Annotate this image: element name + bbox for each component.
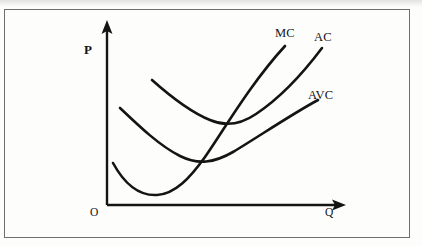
avc-curve-label: AVC xyxy=(308,88,333,103)
mc-curve-label: MC xyxy=(275,26,295,41)
figure-container: P O Q MC AC AVC xyxy=(0,0,422,246)
ac-curve-label: AC xyxy=(314,30,332,45)
origin-label: O xyxy=(90,206,98,218)
mc-curve xyxy=(113,46,285,195)
axes-group xyxy=(107,29,336,205)
curves-group xyxy=(113,46,322,195)
x-axis-label: Q xyxy=(325,206,333,218)
y-axis-label: P xyxy=(84,42,92,58)
avc-curve xyxy=(120,100,318,162)
cost-curve-plot xyxy=(0,0,422,246)
